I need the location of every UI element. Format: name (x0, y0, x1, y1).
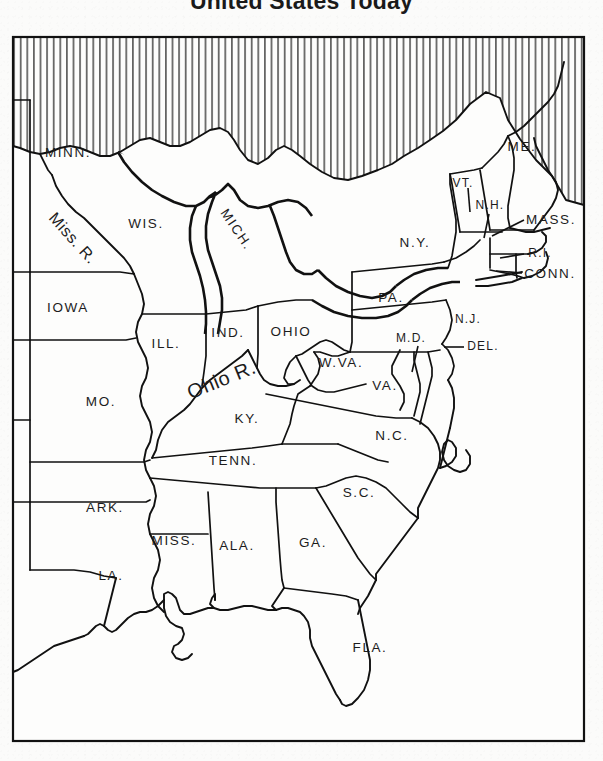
state-label-vt: VT. (453, 176, 474, 190)
state-label-ark: ARK. (86, 500, 124, 515)
state-label-fla: FLA. (353, 640, 388, 655)
map-page: United States Today (0, 0, 603, 761)
state-label-del: DEL. (467, 339, 498, 353)
state-label-ny: N.Y. (400, 235, 431, 250)
state-label-ky: KY. (235, 411, 260, 426)
state-label-pa: PA. (378, 290, 404, 305)
state-label-nc: N.C. (375, 428, 408, 443)
state-label-md: M.D. (396, 331, 426, 345)
state-label-la: LA. (98, 568, 123, 583)
state-label-ill: ILL. (152, 336, 181, 351)
state-label-ga: GA. (299, 535, 327, 550)
state-label-wis: WIS. (128, 216, 164, 231)
state-label-va: VA. (372, 378, 398, 393)
state-label-sc: S.C. (343, 485, 376, 500)
state-label-ala: ALA. (219, 538, 255, 553)
state-label-nh: N.H. (476, 198, 505, 212)
state-label-ohio: OHIO (271, 324, 312, 339)
state-label-me: ME. (508, 139, 537, 154)
state-label-mass: MASS. (526, 212, 576, 227)
state-label-nj: N.J. (455, 312, 481, 326)
map-figure: MINN.WIS.MICH.IOWAILL.IND.OHIOMO.KY.TENN… (0, 0, 603, 761)
state-label-ind: IND. (211, 325, 244, 340)
state-label-minn: MINN. (45, 145, 91, 160)
state-label-wva: W.VA. (319, 355, 364, 370)
state-label-mo: MO. (86, 394, 116, 409)
state-label-miss: MISS. (152, 533, 197, 548)
state-label-tenn: TENN. (209, 453, 258, 468)
state-label-iowa: IOWA (47, 300, 89, 315)
state-label-conn: CONN. (524, 266, 576, 281)
map-svg: MINN.WIS.MICH.IOWAILL.IND.OHIOMO.KY.TENN… (0, 0, 603, 761)
state-label-ri: R.I. (528, 246, 551, 260)
